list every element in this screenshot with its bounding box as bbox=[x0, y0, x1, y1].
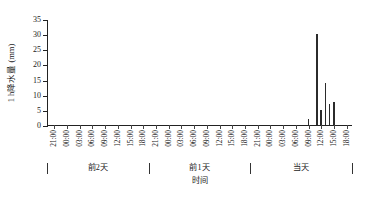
x-tick-label: 00:00 bbox=[267, 130, 274, 147]
y-tick-mark bbox=[43, 35, 48, 36]
y-tick-label: 25 bbox=[33, 46, 41, 54]
x-tick-label: 18:00 bbox=[343, 130, 350, 147]
y-tick-label: 20 bbox=[33, 61, 41, 69]
x-tick-label: 03:00 bbox=[76, 130, 83, 147]
y-tick-label: 0 bbox=[37, 122, 41, 130]
x-tick-mark bbox=[207, 125, 208, 129]
y-tick-mark bbox=[43, 96, 48, 97]
x-tick-mark bbox=[92, 125, 93, 129]
x-tick-mark bbox=[334, 125, 335, 129]
precipitation-bar-chart: 1 h降水量 (mm) 05101520253035 21:0000:0003:… bbox=[0, 0, 369, 198]
x-tick-label: 00:00 bbox=[165, 130, 172, 147]
x-tick-label: 12:00 bbox=[114, 130, 121, 147]
x-tick-label: 06:00 bbox=[89, 130, 96, 147]
x-tick-mark bbox=[131, 125, 132, 129]
bar bbox=[316, 34, 318, 125]
day-group-label: 前1天 bbox=[189, 162, 209, 174]
day-group-divider bbox=[352, 163, 353, 174]
x-tick-label: 18:00 bbox=[140, 130, 147, 147]
x-tick-mark bbox=[105, 125, 106, 129]
x-axis-title: 时间 bbox=[192, 175, 208, 187]
y-tick-label: 15 bbox=[33, 77, 41, 85]
day-group-divider bbox=[250, 163, 251, 174]
x-tick-mark bbox=[80, 125, 81, 129]
x-tick-label: 15:00 bbox=[127, 130, 134, 147]
y-axis-title: 1 h降水量 (mm) bbox=[4, 18, 18, 128]
x-tick-mark bbox=[309, 125, 310, 129]
bar bbox=[320, 110, 322, 125]
x-tick-mark bbox=[54, 125, 55, 129]
plot-area: 05101520253035 21:0000:0003:0006:0009:00… bbox=[47, 20, 352, 126]
bar bbox=[325, 83, 327, 125]
day-group-label: 前2天 bbox=[88, 162, 108, 174]
x-tick-mark bbox=[296, 125, 297, 129]
x-tick-label: 03:00 bbox=[279, 130, 286, 147]
x-tick-mark bbox=[143, 125, 144, 129]
y-tick-label: 30 bbox=[33, 31, 41, 39]
x-tick-mark bbox=[194, 125, 195, 129]
x-tick-label: 06:00 bbox=[292, 130, 299, 147]
x-tick-label: 15:00 bbox=[330, 130, 337, 147]
x-tick-mark bbox=[321, 125, 322, 129]
bar bbox=[329, 104, 331, 125]
y-tick-mark bbox=[43, 65, 48, 66]
x-tick-label: 21:00 bbox=[254, 130, 261, 147]
bar bbox=[333, 102, 335, 125]
day-group-divider bbox=[47, 163, 48, 174]
y-tick-mark bbox=[43, 81, 48, 82]
x-tick-label: 03:00 bbox=[178, 130, 185, 147]
x-tick-mark bbox=[283, 125, 284, 129]
x-tick-label: 21:00 bbox=[152, 130, 159, 147]
x-tick-mark bbox=[118, 125, 119, 129]
x-tick-mark bbox=[347, 125, 348, 129]
x-tick-label: 15:00 bbox=[229, 130, 236, 147]
x-tick-label: 09:00 bbox=[305, 130, 312, 147]
x-tick-mark bbox=[220, 125, 221, 129]
y-tick-mark bbox=[43, 20, 48, 21]
x-tick-label: 00:00 bbox=[63, 130, 70, 147]
x-tick-label: 12:00 bbox=[318, 130, 325, 147]
x-tick-mark bbox=[156, 125, 157, 129]
x-tick-mark bbox=[245, 125, 246, 129]
y-tick-mark bbox=[43, 126, 48, 127]
y-tick-label: 5 bbox=[37, 107, 41, 115]
x-tick-label: 09:00 bbox=[101, 130, 108, 147]
x-tick-mark bbox=[169, 125, 170, 129]
x-tick-mark bbox=[67, 125, 68, 129]
y-tick-mark bbox=[43, 50, 48, 51]
day-group-label: 当天 bbox=[293, 162, 309, 174]
x-tick-label: 09:00 bbox=[203, 130, 210, 147]
x-tick-label: 12:00 bbox=[216, 130, 223, 147]
x-tick-label: 06:00 bbox=[190, 130, 197, 147]
x-tick-mark bbox=[258, 125, 259, 129]
y-tick-label: 10 bbox=[33, 92, 41, 100]
y-tick-label: 35 bbox=[33, 16, 41, 24]
x-tick-label: 21:00 bbox=[51, 130, 58, 147]
x-tick-mark bbox=[270, 125, 271, 129]
x-tick-mark bbox=[181, 125, 182, 129]
bar-series bbox=[48, 20, 352, 125]
x-tick-label: 18:00 bbox=[241, 130, 248, 147]
day-group-axis: 前2天前1天当天 bbox=[47, 163, 352, 175]
day-group-divider bbox=[149, 163, 150, 174]
y-tick-mark bbox=[43, 111, 48, 112]
x-tick-mark bbox=[232, 125, 233, 129]
